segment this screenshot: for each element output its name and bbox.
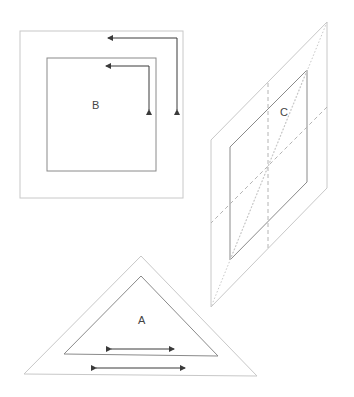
label-b: B [92,99,99,111]
label-a: A [138,314,146,326]
shape-b: B [20,31,183,198]
square-b-outer [20,31,183,198]
corner-arrow-inner [106,66,149,110]
square-b-inner [47,58,156,171]
shape-a: A [24,256,257,376]
shape-c: C [211,22,327,307]
label-c: C [280,106,288,118]
diagram-canvas: B C A [0,0,354,397]
corner-arrow-outer [108,38,177,110]
